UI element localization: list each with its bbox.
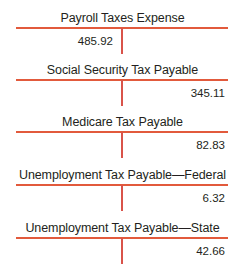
account-title: Unemployment Tax Payable—Federal: [0, 168, 245, 182]
t-account-vertical-rule: [121, 28, 123, 54]
t-account-vertical-rule: [121, 238, 123, 264]
debit-amount: 485.92: [78, 35, 113, 48]
credit-amount: 345.11: [191, 87, 225, 100]
t-account-vertical-rule: [121, 185, 123, 211]
credit-amount: 42.66: [196, 245, 225, 258]
credit-amount: 82.83: [196, 139, 225, 152]
account-title: Payroll Taxes Expense: [0, 11, 245, 25]
t-account-vertical-rule: [121, 132, 123, 158]
account-title: Unemployment Tax Payable—State: [0, 221, 245, 235]
t-account-vertical-rule: [121, 80, 123, 106]
account-title: Medicare Tax Payable: [0, 115, 245, 129]
account-title: Social Security Tax Payable: [0, 63, 245, 77]
credit-amount: 6.32: [203, 192, 225, 205]
